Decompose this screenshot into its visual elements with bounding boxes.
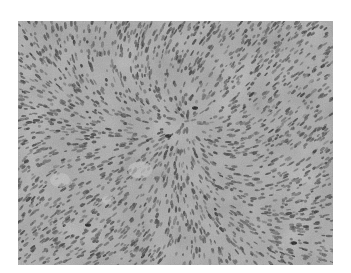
histology-micrograph [18,21,333,265]
tissue-texture [18,21,333,265]
